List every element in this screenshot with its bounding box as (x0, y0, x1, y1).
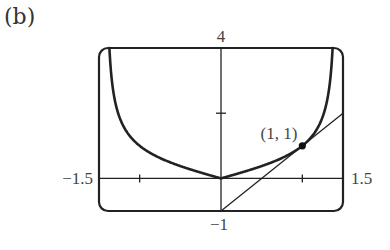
point-marker (299, 142, 306, 149)
x-max-tick-label: 1.5 (351, 169, 372, 188)
point-annotation-label: (1, 1) (261, 124, 298, 143)
y-max-tick-label: 4 (217, 27, 226, 46)
chart: (1, 1) −1.5 1.5 4 −1 (0, 0, 390, 250)
y-min-tick-label: −1 (210, 215, 228, 234)
x-min-tick-label: −1.5 (62, 169, 93, 188)
